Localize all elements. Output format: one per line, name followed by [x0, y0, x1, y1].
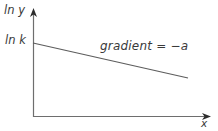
y-intercept-label: ln k	[5, 35, 26, 47]
linear-plot-figure: ln y ln k gradient = −a x	[0, 0, 218, 131]
gradient-annotation: gradient = −a	[100, 40, 188, 52]
y-axis-label: ln y	[4, 5, 25, 17]
plot-canvas	[0, 0, 218, 131]
x-axis-label: x	[201, 118, 207, 129]
